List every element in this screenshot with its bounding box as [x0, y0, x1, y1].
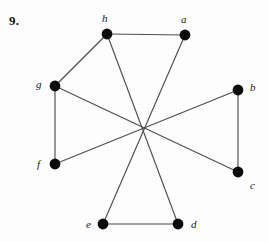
vertex-label-e: e	[86, 219, 91, 230]
graph-vertex-a	[180, 30, 191, 41]
graph-vertex-c	[233, 167, 244, 178]
vertex-label-a: a	[181, 14, 187, 25]
vertex-label-h: h	[102, 13, 108, 24]
vertex-label-g: g	[36, 79, 42, 90]
graph-vertex-b	[233, 85, 244, 96]
edge-layer	[55, 34, 238, 224]
graph-vertex-e	[98, 219, 109, 230]
figure-container: 9. abcdefgh	[0, 0, 269, 242]
graph-vertex-g	[50, 81, 61, 92]
graph-edge-a-e	[103, 35, 185, 224]
graph-edge-g-c	[55, 86, 238, 172]
vertex-label-d: d	[191, 219, 197, 230]
graph-edge-f-b	[55, 90, 238, 164]
vertex-label-f: f	[37, 159, 40, 170]
graph-canvas	[0, 0, 269, 242]
graph-vertex-f	[50, 159, 61, 170]
graph-vertex-d	[173, 219, 184, 230]
graph-edge-h-g	[55, 34, 107, 86]
graph-vertex-h	[102, 29, 113, 40]
graph-edge-h-a	[107, 34, 185, 35]
vertex-label-b: b	[250, 82, 256, 93]
vertex-label-c: c	[250, 180, 255, 191]
